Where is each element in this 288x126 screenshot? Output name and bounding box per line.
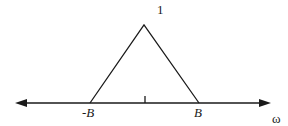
left-bound-label: -B <box>82 106 94 119</box>
right-arrowhead-icon <box>259 99 271 107</box>
omega-axis-label: ω <box>272 112 281 125</box>
peak-label: 1 <box>157 3 164 16</box>
diagram-graphics <box>0 0 288 126</box>
left-arrowhead-icon <box>15 99 27 107</box>
right-bound-label: B <box>194 106 202 119</box>
triangle-spectrum-diagram: 1 -B B ω <box>0 0 288 126</box>
triangle-shape <box>90 25 199 103</box>
